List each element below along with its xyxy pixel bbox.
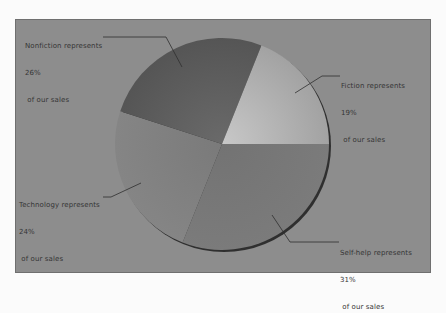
- label-fiction-line1: Fiction represents: [341, 82, 405, 91]
- label-selfhelp: Self-help represents 31% of our sales: [340, 231, 412, 313]
- label-selfhelp-percent: 31%: [340, 276, 412, 285]
- label-nonfiction-percent: 26%: [25, 69, 102, 78]
- label-selfhelp-line3: of our sales: [340, 303, 412, 312]
- label-selfhelp-line1: Self-help represents: [340, 249, 412, 258]
- label-nonfiction-line3: of our sales: [25, 96, 102, 105]
- label-technology-percent: 24%: [19, 228, 100, 237]
- label-nonfiction: Nonfiction represents 26% of our sales: [25, 24, 102, 114]
- label-fiction: Fiction represents 19% of our sales: [341, 64, 405, 154]
- label-fiction-percent: 19%: [341, 109, 405, 118]
- label-technology-line3: of our sales: [19, 255, 100, 264]
- label-technology-line1: Technology represents: [19, 201, 100, 210]
- label-nonfiction-line1: Nonfiction represents: [25, 42, 102, 51]
- label-technology: Technology represents 24% of our sales: [19, 183, 100, 273]
- label-fiction-line3: of our sales: [341, 136, 405, 145]
